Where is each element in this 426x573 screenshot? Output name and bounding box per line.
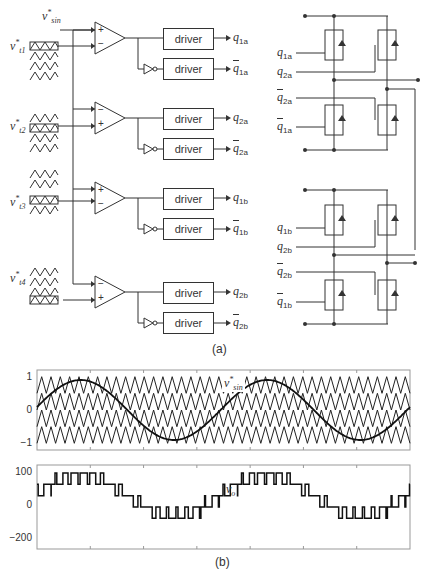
ytick-top-1: 1 [2,371,32,382]
gate-q1a-bar: q1a [277,119,292,135]
caption-a: (a) [212,342,227,356]
driver-q2a-bar: driver [163,138,214,160]
ytick-bottom-100: 100 [2,466,32,477]
comp1-plus: + [98,24,104,35]
comp3-minus: − [98,198,104,209]
driver-q1b: driver [163,188,214,210]
out-q2a: q2a [233,110,248,126]
carrier-label-2: v*t2 [10,118,26,135]
carrier-label-4: v*t4 [10,270,26,287]
h-bridge-a [296,16,418,250]
gate-q2a: q2a [277,64,292,80]
ytick-bottom-neg200: −200 [2,532,32,543]
carrier-stack-4 [30,268,58,304]
driver-q2b-bar: driver [163,312,214,334]
comp2-minus: − [98,104,104,115]
h-bridge-b [296,190,415,324]
out-q1b-bar: q1b [233,221,248,237]
comp4-plus: + [98,292,104,303]
comp4-minus: − [98,278,104,289]
out-q2b: q2b [233,284,248,300]
chart-top-traces [37,370,410,549]
gate-q2b: q2b [277,239,292,255]
out-q2a-bar: q2a [233,141,248,157]
caption-b: (b) [215,555,230,569]
driver-q2a: driver [163,108,214,130]
gate-q1a: q1a [277,45,292,61]
ytick-bottom-0: 0 [2,499,32,510]
comp3-plus: + [98,184,104,195]
vo-annotation: vo [226,482,235,498]
out-q1b: q1b [233,190,248,206]
out-q1a: q1a [233,30,248,46]
driver-q1a-bar: driver [163,58,214,80]
ref-label: v*sin [42,8,61,25]
carrier-stack-2 [30,114,58,152]
gate-q1b-bar: q1b [277,294,292,310]
comp1-minus: − [98,38,104,49]
gate-q1b: q1b [277,220,292,236]
vsin-annotation: v*sin [222,375,245,392]
out-q2b-bar: q2b [233,315,248,331]
carrier-label-3: v*t3 [10,194,26,211]
ytick-top-0: 0 [2,404,32,415]
carrier-stack-3 [30,170,58,214]
carrier-stack-1 [30,42,58,80]
chart-bottom-traces [37,473,410,518]
comp2-plus: + [98,118,104,129]
out-q1a-bar: q1a [233,61,248,77]
gate-q2a-bar: q2a [277,90,292,106]
driver-q1b-bar: driver [163,218,214,240]
carrier-label-1: v*t1 [10,38,26,55]
ytick-top-neg1: −1 [2,437,32,448]
driver-output-arrows [214,38,226,323]
gate-q2b-bar: q2b [277,264,292,280]
driver-q2b: driver [163,282,214,304]
driver-q1a: driver [163,28,214,50]
